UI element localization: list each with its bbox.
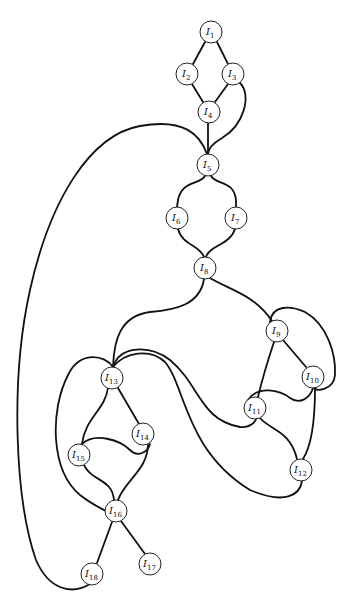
edge-i3-i4 <box>215 84 228 102</box>
node-subscript: 15 <box>76 455 85 463</box>
edge-i13-i14 <box>118 388 139 424</box>
edge-i5-i6 <box>177 176 205 207</box>
node-i15: I15 <box>68 444 90 466</box>
edge-i2-i4 <box>192 84 203 102</box>
node-i11: I11 <box>244 397 266 419</box>
node-subscript: 14 <box>140 434 149 442</box>
node-i16: I16 <box>105 500 127 522</box>
node-subscript: 4 <box>208 112 213 120</box>
node-subscript: 5 <box>207 165 211 173</box>
node-i9: I9 <box>266 320 288 342</box>
node-subscript: 7 <box>235 218 239 226</box>
node-i14: I14 <box>132 423 154 445</box>
node-subscript: 16 <box>113 511 122 519</box>
node-i7: I7 <box>225 207 247 229</box>
node-i18: I18 <box>81 563 103 585</box>
node-subscript: 1 <box>210 32 214 40</box>
node-i2: I2 <box>176 63 198 85</box>
edge-i11-i12 <box>260 418 297 459</box>
edge-i16-i18 <box>97 522 112 563</box>
edge-i1-i2 <box>193 42 205 64</box>
edge-i9-i10 <box>283 340 306 367</box>
node-subscript: 2 <box>186 74 190 82</box>
node-subscript: 11 <box>252 408 261 416</box>
node-subscript: 18 <box>89 574 98 582</box>
node-i6: I6 <box>166 207 188 229</box>
node-subscript: 3 <box>232 74 236 82</box>
node-i5: I5 <box>197 154 219 176</box>
edge-i1-i3 <box>217 42 228 64</box>
nodes-layer: I1I2I3I4I5I6I7I8I9I10I11I12I13I14I15I16I… <box>68 21 324 585</box>
node-i8: I8 <box>194 257 216 279</box>
graph-diagram: I1I2I3I4I5I6I7I8I9I10I11I12I13I14I15I16I… <box>0 0 359 615</box>
edge-i16-i17 <box>121 521 145 554</box>
node-subscript: 10 <box>310 377 319 385</box>
edge-i6-i8 <box>178 229 204 257</box>
edge-i7-i8 <box>206 229 235 257</box>
edge-i5-i7 <box>211 176 236 207</box>
node-subscript: 8 <box>204 268 208 276</box>
node-i10: I10 <box>302 366 324 388</box>
node-subscript: 13 <box>109 378 118 386</box>
node-subscript: 12 <box>298 470 307 478</box>
edge-i15-i16 <box>84 465 114 500</box>
node-i13: I13 <box>101 367 123 389</box>
edge-i13-i15 <box>82 388 108 444</box>
node-subscript: 9 <box>276 331 280 339</box>
edges-layer <box>17 42 335 589</box>
node-subscript: 6 <box>176 218 181 226</box>
node-i3: I3 <box>222 63 244 85</box>
node-i12: I12 <box>290 459 312 481</box>
node-i4: I4 <box>198 101 220 123</box>
node-subscript: 17 <box>147 564 156 572</box>
node-i1: I1 <box>200 21 222 43</box>
edge-i9-i11 <box>258 342 274 397</box>
node-i17: I17 <box>139 553 161 575</box>
edge-i8-i9 <box>210 278 272 321</box>
